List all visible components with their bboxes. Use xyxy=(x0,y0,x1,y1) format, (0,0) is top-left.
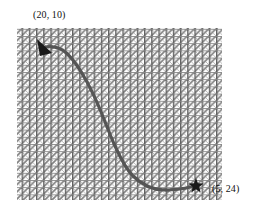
start-point-label: (20, 10) xyxy=(33,9,65,20)
figure-canvas: (20, 10) (5, 24) xyxy=(0,0,257,222)
end-point-label: (5, 24) xyxy=(212,183,239,194)
